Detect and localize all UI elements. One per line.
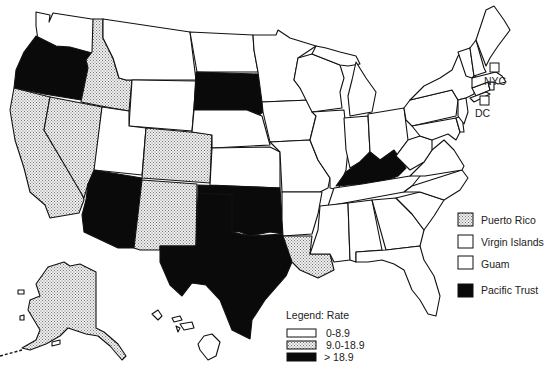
legend-label-low: 0-8.9	[326, 327, 350, 339]
legend-label-mid: 9.0-18.9	[326, 339, 365, 351]
state-iowa	[262, 100, 316, 142]
alaska-island	[52, 340, 60, 346]
state-new-mexico	[134, 180, 197, 250]
territories-legend: Puerto Rico Virgin Islands Guam Pacific …	[458, 213, 544, 297]
label-puerto-rico: Puerto Rico	[481, 214, 536, 226]
swatch-puerto-rico	[458, 213, 473, 226]
legend-swatch-low	[287, 329, 316, 337]
rate-legend: Legend: Rate 0-8.9 9.0-18.9 > 18.9	[286, 309, 365, 363]
hawaii-big-island	[198, 334, 220, 360]
dc-box	[480, 96, 489, 105]
nyc-box	[490, 63, 499, 72]
label-guam: Guam	[481, 258, 510, 270]
state-wyoming	[129, 80, 196, 131]
legend-label-high: > 18.9	[324, 351, 354, 363]
us-choropleth-map: NYC DC Puerto Rico Virgin Islands Guam P…	[0, 0, 547, 367]
label-pacific-trust: Pacific Trust	[481, 284, 538, 296]
swatch-pacific-trust	[458, 284, 473, 297]
swatch-virgin-islands	[458, 235, 473, 248]
state-north-dakota	[190, 32, 258, 72]
swatch-guam	[458, 256, 473, 269]
state-arkansas	[282, 192, 322, 236]
state-florida	[356, 246, 440, 316]
alaska-aleutians	[0, 350, 22, 356]
hawaii-island	[176, 326, 180, 332]
state-colorado	[142, 128, 212, 183]
hawaii-island	[172, 316, 182, 322]
hawaii-island	[152, 310, 162, 320]
state-montana	[103, 19, 196, 80]
nyc-label: NYC	[484, 75, 507, 87]
state-michigan	[348, 62, 376, 116]
legend-title: Legend: Rate	[286, 309, 349, 321]
label-virgin-islands: Virgin Islands	[481, 236, 544, 248]
legend-swatch-high	[287, 353, 316, 361]
state-kansas	[210, 147, 280, 188]
alaska-island	[18, 290, 24, 294]
alaska-island	[20, 315, 24, 320]
legend-swatch-mid	[287, 341, 316, 349]
state-south-dakota	[194, 72, 263, 116]
hawaii-island	[180, 322, 194, 330]
dc-label: DC	[475, 107, 491, 119]
state-arizona	[82, 170, 142, 248]
city-marker-nyc: NYC	[484, 63, 507, 87]
state-alaska	[22, 262, 126, 360]
